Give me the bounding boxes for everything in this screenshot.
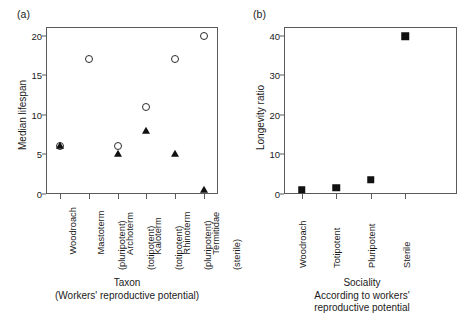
x-tick-mark-a-4 (175, 194, 176, 199)
x-axis-title-b: Sociality According to workers' reproduc… (251, 277, 473, 315)
x-tick-label-b-totipotent: Totipotent (332, 228, 343, 268)
y-tick-mark-a-20 (42, 35, 46, 36)
data-point-circle-rhinoterm (171, 55, 179, 63)
data-point-triangle-rhinoterm (171, 150, 179, 157)
figure-container: (a) Median lifespan 0 5 10 15 20 Woodroa… (0, 0, 473, 322)
y-tick-label-a-10: 10 (16, 109, 42, 120)
x-tick-label-a-kaloterm-main: Kaloterm (153, 217, 163, 254)
x-tick-label-a-mastoterm-main: Mastoterm (96, 211, 106, 255)
panel-a-label: (a) (17, 8, 30, 20)
y-tick-mark-b-0 (280, 193, 284, 194)
data-point-circle-kaloterm (142, 103, 150, 111)
x-axis-title-a: Taxon (Workers' reproductive potential) (14, 277, 240, 302)
y-tick-label-b-0: 0 (254, 188, 280, 199)
data-point-square-sterile (402, 32, 410, 40)
y-tick-label-a-15: 15 (16, 70, 42, 81)
data-point-triangle-archoterm (114, 150, 122, 157)
data-point-triangle-woodroach (56, 142, 64, 149)
plot-area-a (46, 27, 218, 194)
data-point-square-totipotent (332, 184, 340, 192)
x-tick-mark-a-0 (60, 194, 61, 199)
panel-b-label: (b) (253, 8, 266, 20)
x-tick-mark-a-3 (146, 194, 147, 199)
panel-b: (b) Longevity ratio 0 10 20 30 40 Woodro… (233, 0, 473, 322)
x-tick-label-b-woodroach: Woodroach (298, 221, 309, 268)
y-tick-mark-b-30 (280, 75, 284, 76)
data-point-triangle-termitidae (200, 185, 208, 192)
y-tick-label-b-40: 40 (254, 31, 280, 42)
y-tick-label-b-10: 10 (254, 149, 280, 160)
x-tick-mark-a-5 (204, 194, 205, 199)
x-tick-mark-a-1 (89, 194, 90, 199)
y-tick-mark-a-5 (42, 154, 46, 155)
y-tick-mark-a-15 (42, 75, 46, 76)
y-tick-label-b-20: 20 (254, 109, 280, 120)
x-tick-mark-b-3 (405, 194, 406, 199)
y-tick-label-a-5: 5 (16, 149, 42, 160)
data-point-square-woodroach (298, 186, 306, 194)
plot-area-b (284, 27, 457, 194)
panel-a: (a) Median lifespan 0 5 10 15 20 Woodroa… (0, 0, 240, 322)
data-point-circle-mastoterm (85, 55, 93, 63)
data-point-circle-termitidae (200, 32, 208, 40)
data-point-triangle-kaloterm (142, 127, 150, 134)
y-tick-mark-a-0 (42, 193, 46, 194)
y-tick-label-a-0: 0 (16, 188, 42, 199)
y-tick-label-b-30: 30 (254, 70, 280, 81)
x-tick-mark-b-2 (371, 194, 372, 199)
x-tick-label-a-woodroach-main: Woodroach (67, 207, 77, 254)
y-tick-mark-b-20 (280, 114, 284, 115)
x-tick-label-b-sterile: Sterile (402, 242, 413, 268)
y-tick-mark-b-10 (280, 154, 284, 155)
x-tick-label-a-archoterm-main: Archoterm (124, 212, 134, 255)
y-tick-mark-b-40 (280, 36, 284, 37)
x-tick-label-a-termitidae-main: Termitidae (210, 212, 220, 255)
x-tick-label-b-pluripotent: Pluripotent (367, 224, 378, 268)
x-tick-mark-a-2 (118, 194, 119, 199)
x-tick-label-a-rhinoterm-main: Rhinoterm (182, 212, 192, 255)
x-tick-mark-b-1 (336, 194, 337, 199)
y-tick-label-a-20: 20 (16, 30, 42, 41)
x-tick-mark-b-0 (302, 194, 303, 199)
y-tick-mark-a-10 (42, 114, 46, 115)
data-point-square-pluripotent (367, 176, 375, 184)
